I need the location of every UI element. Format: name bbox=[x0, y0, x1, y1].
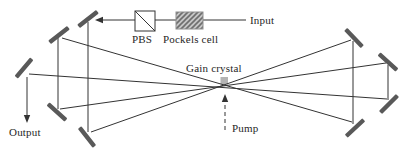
input-label: Input bbox=[250, 14, 274, 26]
gain-crystal bbox=[221, 77, 229, 85]
output-label: Output bbox=[9, 126, 41, 138]
beam-diagonal-2 bbox=[62, 38, 352, 122]
gain-crystal-label: Gain crystal bbox=[186, 62, 242, 74]
pbs-label: PBS bbox=[132, 33, 152, 45]
mirror-top-right-inner bbox=[344, 28, 364, 48]
pump-arrowhead bbox=[222, 94, 228, 102]
pockels-cell-box bbox=[176, 12, 203, 29]
pockels-cell-label: Pockels cell bbox=[163, 33, 218, 45]
output-arrowhead bbox=[24, 115, 30, 123]
mirror-left-output bbox=[15, 57, 34, 78]
beam-diagonal-4 bbox=[29, 74, 387, 99]
input-arrowhead bbox=[95, 17, 103, 23]
mirror-bottom-left-outer bbox=[47, 102, 68, 121]
pump-label: Pump bbox=[232, 122, 258, 134]
optical-schematic: Input PBS Pockels cell Gain crystal Pump… bbox=[0, 0, 414, 154]
mirror-top-left-outer bbox=[48, 26, 70, 44]
mirror-bottom-left-inner bbox=[78, 126, 96, 148]
mirror-bottom-right-outer bbox=[379, 94, 399, 114]
schematic-drawing bbox=[0, 0, 414, 154]
